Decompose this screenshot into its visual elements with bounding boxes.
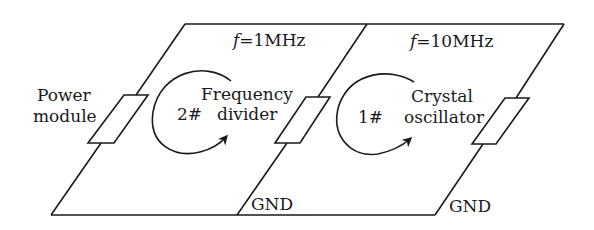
power-module-connector <box>88 95 148 143</box>
divider-edge-upper <box>318 24 367 97</box>
board2-frequency-value: =1MHz <box>239 30 305 50</box>
power-module-label-line1: Power <box>37 85 92 105</box>
right-edge-upper <box>516 24 564 98</box>
board1-frequency: f=10MHz <box>408 31 493 51</box>
left-edge-upper <box>136 24 185 95</box>
board2-number: 2# <box>177 104 202 124</box>
board2-ground-label: GND <box>251 194 293 214</box>
board1-frequency-value: =10MHz <box>416 31 493 51</box>
pcb-diagram: Power module f=1MHz Frequency 2# divider… <box>0 0 594 230</box>
board1-name-line2: oscillator <box>404 107 485 127</box>
board1-number: 1# <box>358 107 383 127</box>
board2-name-line2: divider <box>217 104 278 124</box>
board2-name-line1: Frequency <box>201 84 293 104</box>
board1-name-line1: Crystal <box>411 86 473 106</box>
left-edge-lower <box>51 143 101 215</box>
power-module-label-line2: module <box>33 106 97 126</box>
board2-frequency: f=1MHz <box>231 30 306 50</box>
board1-ground-label: GND <box>449 196 491 216</box>
